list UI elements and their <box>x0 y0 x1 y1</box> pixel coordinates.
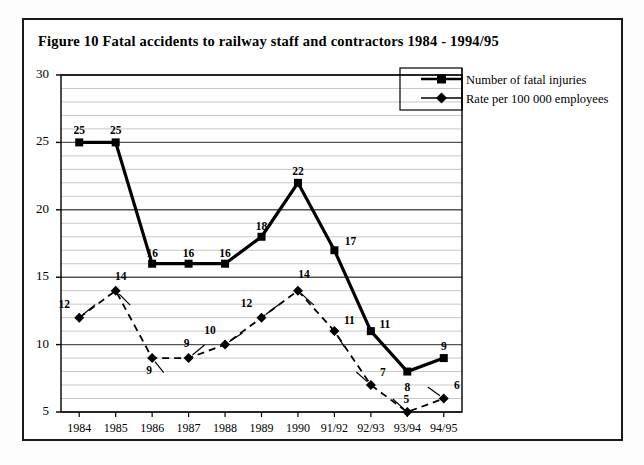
data-label-rate: 12 <box>58 298 70 310</box>
y-axis-tick-label: 30 <box>21 66 49 82</box>
x-axis-tick-label: 92/93 <box>357 421 384 436</box>
legend-label-rate: Rate per 100 000 employees <box>466 92 608 107</box>
data-label-rate: 5 <box>403 393 409 405</box>
data-label-rate: 9 <box>146 364 152 376</box>
x-axis-tick-label: 1985 <box>104 421 128 436</box>
data-label-fatal-injuries: 16 <box>146 247 158 259</box>
data-label-fatal-injuries: 18 <box>256 220 268 232</box>
x-axis-tick-label: 1990 <box>286 421 310 436</box>
x-axis-tick-label: 1989 <box>250 421 274 436</box>
data-label-fatal-injuries: 17 <box>345 235 357 247</box>
figure-title: Figure 10 Fatal accidents to railway sta… <box>38 33 499 50</box>
data-label-rate: 9 <box>184 337 190 349</box>
data-label-rate: 6 <box>454 379 460 391</box>
data-label-rate: 10 <box>204 324 216 336</box>
figure-root: Figure 10 Fatal accidents to railway sta… <box>0 0 644 465</box>
x-axis-tick-label: 1984 <box>67 421 91 436</box>
x-axis-tick-label: 93/94 <box>394 421 421 436</box>
x-axis-tick-label: 94/95 <box>430 421 457 436</box>
data-label-rate: 7 <box>380 366 386 378</box>
data-label-fatal-injuries: 11 <box>379 318 390 330</box>
data-label-rate: 12 <box>241 297 253 309</box>
y-axis-tick-label: 5 <box>21 403 49 419</box>
data-label-fatal-injuries: 16 <box>183 247 195 259</box>
x-axis-tick-label: 1986 <box>140 421 164 436</box>
x-axis-tick-label: 91/92 <box>321 421 348 436</box>
data-label-rate: 14 <box>115 270 127 282</box>
data-label-rate: 14 <box>298 268 310 280</box>
x-axis-tick-label: 1987 <box>177 421 201 436</box>
y-axis-tick-label: 20 <box>21 201 49 217</box>
y-axis-tick-label: 10 <box>21 336 49 352</box>
data-label-fatal-injuries: 9 <box>441 340 447 352</box>
data-label-rate: 11 <box>344 314 355 326</box>
x-axis-tick-label: 1988 <box>213 421 237 436</box>
data-label-fatal-injuries: 25 <box>73 124 85 136</box>
y-axis-tick-label: 25 <box>21 133 49 149</box>
data-label-fatal-injuries: 16 <box>219 247 231 259</box>
data-label-fatal-injuries: 8 <box>404 381 410 393</box>
legend-label-fatal-injuries: Number of fatal injuries <box>466 73 586 88</box>
data-label-fatal-injuries: 25 <box>110 124 122 136</box>
data-label-fatal-injuries: 22 <box>292 165 304 177</box>
y-axis-tick-label: 15 <box>21 268 49 284</box>
